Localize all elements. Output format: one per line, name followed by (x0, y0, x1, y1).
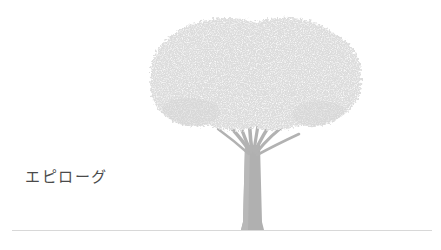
book-page: エピローグ (0, 0, 441, 250)
footer-rule (0, 0, 441, 250)
